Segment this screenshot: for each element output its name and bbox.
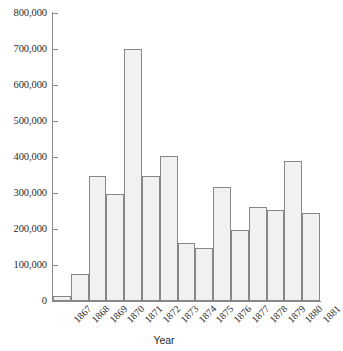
y-tick (53, 301, 58, 302)
x-axis-title: Year (0, 334, 328, 346)
x-tick-label: 1881 (321, 303, 343, 325)
y-tick-label: 800,000 (14, 8, 50, 19)
bar (89, 176, 107, 301)
y-tick-label: 100,000 (14, 260, 50, 271)
y-tick-label: 500,000 (14, 116, 50, 127)
bar (142, 176, 160, 301)
x-axis-line (52, 301, 321, 302)
y-tick-label: 400,000 (14, 152, 50, 163)
bar (124, 49, 142, 301)
x-tick-label: 1873 (179, 303, 201, 325)
bar (178, 243, 196, 301)
plot-area (53, 13, 320, 301)
bar (249, 207, 267, 301)
bar (284, 161, 302, 301)
bar (53, 296, 71, 301)
bar (71, 274, 89, 301)
bar (213, 187, 231, 301)
y-tick-label: 700,000 (14, 44, 50, 55)
x-tick-label: 1878 (268, 303, 290, 325)
y-tick-label: 200,000 (14, 224, 50, 235)
y-tick-label: 600,000 (14, 80, 50, 91)
y-tick-label: 0 (42, 296, 50, 307)
y-tick-label: 300,000 (14, 188, 50, 199)
bar (160, 156, 178, 301)
bar (302, 213, 320, 301)
bar (195, 248, 213, 301)
x-tick-label: 1868 (90, 303, 112, 325)
bar (267, 210, 285, 301)
bar (106, 194, 124, 301)
bar (231, 230, 249, 301)
